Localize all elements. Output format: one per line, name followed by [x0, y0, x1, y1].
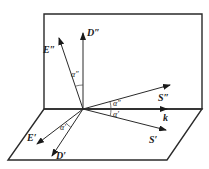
angle-label-alpha-double-prime-right: α″: [113, 99, 121, 108]
vector-s-prime: [83, 109, 166, 130]
label-k: k: [163, 112, 168, 123]
label-s-double-prime: S″: [158, 92, 169, 103]
vertical-plane: [44, 14, 202, 109]
label-s-prime: S′: [149, 134, 158, 145]
angle-label-alpha-prime-right: α′: [113, 110, 119, 119]
planes: [8, 14, 202, 160]
angle-label-alpha-prime-lower: α′: [60, 123, 66, 132]
angle-arc-k-s2: [110, 102, 111, 109]
label-d-prime: D′: [55, 150, 66, 161]
angle-arc-k-s1: [110, 109, 111, 116]
vector-diagram: D″ E″ S″ k S′ E′ D′ α″ α″ α′ α′: [0, 0, 209, 169]
label-e-double-prime: E″: [42, 44, 55, 55]
label-d-double-prime: D″: [86, 27, 100, 38]
horizontal-plane: [8, 109, 202, 160]
angle-arc-e1-d1: [66, 122, 72, 127]
label-e-prime: E′: [26, 132, 37, 143]
vector-d-prime: [52, 109, 83, 156]
angle-arc-d2-e2: [75, 85, 83, 86]
vector-labels: D″ E″ S″ k S′ E′ D′: [26, 27, 169, 161]
angle-label-alpha-double-prime-upper: α″: [71, 70, 79, 79]
angle-labels: α″ α″ α′ α′: [60, 70, 121, 132]
angle-arcs: [66, 85, 112, 127]
vector-s-double-prime: [83, 85, 170, 109]
